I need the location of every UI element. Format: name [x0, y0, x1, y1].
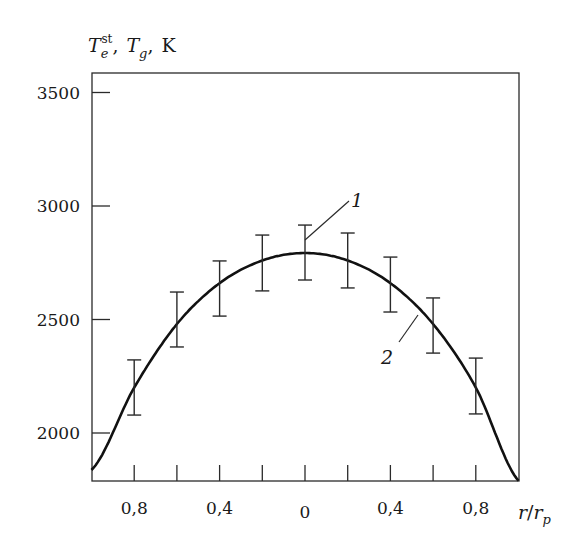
chart: Test,Tg,K 2000250030003500 0,80,400,40,8…	[0, 0, 586, 547]
error-bar	[383, 257, 397, 312]
x-tick-label: 0,4	[206, 498, 233, 518]
x-tick-label: 0,4	[377, 498, 404, 518]
error-bar	[426, 298, 440, 353]
series-2-curve	[92, 253, 519, 481]
annotation-2-label: 2	[380, 346, 393, 368]
x-tick-label: 0,8	[121, 498, 148, 518]
error-bar	[341, 233, 355, 288]
x-axis-ticks: 0,80,400,40,8	[121, 465, 490, 522]
y-tick-label: 3000	[37, 196, 80, 216]
annotation-2-leader	[399, 315, 418, 342]
y-axis-label: Test,Tg,K	[88, 32, 176, 61]
x-tick-label: 0	[300, 502, 311, 522]
y-tick-label: 2000	[37, 423, 80, 443]
y-axis-ticks: 2000250030003500	[37, 83, 110, 444]
annotation-1-label: 1	[351, 189, 363, 211]
annotation-1-leader	[305, 201, 349, 240]
x-axis-label: r/rp	[518, 501, 552, 527]
error-bar	[469, 358, 483, 414]
error-bar	[127, 360, 141, 415]
y-tick-label: 2500	[37, 310, 80, 330]
y-tick-label: 3500	[37, 83, 80, 103]
x-tick-label: 0,8	[462, 498, 489, 518]
